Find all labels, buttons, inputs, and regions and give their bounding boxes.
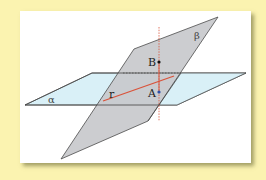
point-B <box>157 60 160 63</box>
point-A <box>157 90 160 93</box>
label-beta: β <box>194 30 200 41</box>
planes-diagram: B A r α β <box>0 0 266 180</box>
label-B: B <box>148 56 156 69</box>
label-A: A <box>147 87 157 100</box>
label-alpha: α <box>48 94 55 105</box>
label-r: r <box>109 88 115 101</box>
